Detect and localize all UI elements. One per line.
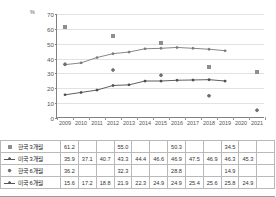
x-tick-label: 2019	[219, 120, 231, 126]
table-cell	[132, 165, 150, 177]
table-cell: 46.9	[203, 153, 221, 165]
table-cell	[185, 165, 203, 177]
table-cell: 47.5	[185, 153, 203, 165]
diamond-marker-icon	[4, 156, 15, 162]
data-point	[63, 25, 67, 29]
table-row: 미국 6개월15.617.218.821.922.324.924.925.425…	[1, 177, 276, 189]
table-cell	[150, 165, 168, 177]
x-tick-label: 2018	[203, 120, 215, 126]
table-cell: 44.4	[132, 153, 150, 165]
legend-cell[interactable]: 미국 3개월	[1, 153, 61, 165]
table-cell	[96, 141, 114, 153]
table-cell	[203, 165, 221, 177]
table-cell	[185, 141, 203, 153]
table-cell: 17.2	[78, 177, 96, 189]
data-point	[255, 70, 259, 74]
data-table: 한국 3개월61.255.050.334.530.9미국 3개월35.937.1…	[0, 140, 275, 189]
square-marker-icon	[4, 144, 15, 150]
table-cell: 18.8	[96, 177, 114, 189]
y-tick-label: 0	[51, 115, 54, 122]
legend-cell[interactable]: 미국 6개월	[1, 177, 61, 189]
table-cell	[257, 141, 275, 153]
x-tick-label: 2010	[75, 120, 87, 126]
y-tick-label: 40	[47, 55, 54, 62]
table-cell: 46.9	[168, 153, 186, 165]
y-axis-unit-label: %	[30, 9, 35, 15]
table-cell: 24.9	[150, 177, 168, 189]
table-cell: 15.6	[61, 177, 79, 189]
y-tick-label: 50	[47, 40, 54, 47]
data-point	[111, 34, 115, 38]
x-tick-label: 2012	[107, 120, 119, 126]
data-table-wrapper: 한국 3개월61.255.050.334.530.9미국 3개월35.937.1…	[0, 140, 275, 189]
plot-area: 010203040506070 200920102011201220132014…	[56, 14, 264, 118]
table-cell: 28.8	[168, 165, 186, 177]
table-cell: 36.2	[61, 165, 79, 177]
chart-area: % 010203040506070 2009201020112012201320…	[0, 0, 275, 140]
table-cell: 25.6	[203, 177, 221, 189]
data-table-body: 한국 3개월61.255.050.334.530.9미국 3개월35.937.1…	[1, 141, 276, 189]
y-tick-label: 20	[47, 85, 54, 92]
table-cell: 37.1	[78, 153, 96, 165]
x-tick-label: 2016	[171, 120, 183, 126]
legend-label: 한국 6개월	[18, 166, 43, 175]
table-row: 한국 6개월36.232.328.814.95.2	[1, 165, 276, 177]
legend-label: 미국 6개월	[18, 178, 43, 187]
table-cell: 24.9	[168, 177, 186, 189]
table-cell: 34.5	[221, 141, 239, 153]
table-cell: 40.7	[96, 153, 114, 165]
x-tick-label: 2014	[139, 120, 151, 126]
x-tick-label: 2009	[59, 120, 71, 126]
chart-with-data-table: % 010203040506070 2009201020112012201320…	[0, 0, 275, 197]
table-cell	[257, 165, 275, 177]
y-tick-label: 60	[47, 25, 54, 32]
table-cell	[78, 165, 96, 177]
legend-cell[interactable]: 한국 6개월	[1, 165, 61, 177]
table-cell	[203, 141, 221, 153]
table-cell: 22.3	[132, 177, 150, 189]
table-row: 한국 3개월61.255.050.334.530.9	[1, 141, 276, 153]
x-tick-label: 2021	[251, 120, 263, 126]
x-tick-label: 2015	[155, 120, 167, 126]
legend-label: 미국 3개월	[18, 154, 43, 163]
y-tick-label: 70	[47, 11, 54, 18]
table-cell: 14.9	[221, 165, 239, 177]
table-cell: 50.3	[168, 141, 186, 153]
table-cell: 61.2	[61, 141, 79, 153]
diamond-marker-icon	[4, 180, 15, 186]
table-cell	[257, 177, 275, 189]
x-tick-label: 2013	[123, 120, 135, 126]
series-lines	[57, 14, 265, 118]
x-tick-label: 2011	[91, 120, 103, 126]
legend-cell[interactable]: 한국 3개월	[1, 141, 61, 153]
table-cell: 24.9	[239, 177, 257, 189]
table-cell	[239, 165, 257, 177]
table-bottom-rule	[0, 196, 275, 197]
y-tick-label: 10	[47, 100, 54, 107]
table-cell	[96, 165, 114, 177]
data-point	[207, 65, 211, 69]
table-cell: 55.0	[114, 141, 132, 153]
x-tick-mark	[265, 117, 266, 120]
table-cell: 43.3	[114, 153, 132, 165]
table-cell: 45.3	[239, 153, 257, 165]
table-cell	[78, 141, 96, 153]
y-tick-label: 30	[47, 70, 54, 77]
table-cell	[150, 141, 168, 153]
table-cell: 32.3	[114, 165, 132, 177]
table-cell: 46.6	[150, 153, 168, 165]
legend-label: 한국 3개월	[18, 142, 43, 151]
table-cell: 25.8	[221, 177, 239, 189]
table-cell: 25.4	[185, 177, 203, 189]
table-cell	[257, 153, 275, 165]
table-cell	[239, 141, 257, 153]
table-cell	[132, 141, 150, 153]
table-cell: 46.3	[221, 153, 239, 165]
table-cell: 21.9	[114, 177, 132, 189]
diamond-marker-icon	[4, 168, 15, 174]
x-tick-label: 2020	[235, 120, 247, 126]
x-tick-label: 2017	[187, 120, 199, 126]
table-row: 미국 3개월35.937.140.743.344.446.646.947.546…	[1, 153, 276, 165]
data-point	[159, 41, 163, 45]
table-cell: 35.9	[61, 153, 79, 165]
